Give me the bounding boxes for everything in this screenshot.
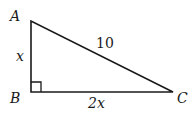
side-label-ac: 10 xyxy=(96,35,114,51)
vertex-label-b: B xyxy=(9,90,20,106)
side-label-ab: x xyxy=(16,48,24,64)
vertex-label-c: C xyxy=(177,90,188,106)
triangle-diagram: A B C x 2x 10 xyxy=(0,0,195,113)
right-angle-marker xyxy=(31,82,41,92)
vertex-label-a: A xyxy=(8,8,20,24)
triangle-abc xyxy=(31,21,173,92)
side-label-bc: 2x xyxy=(87,95,105,111)
